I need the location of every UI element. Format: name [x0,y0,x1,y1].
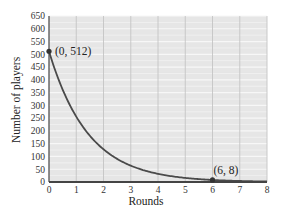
y-axis-ticks: 050100150200250300350400450500550600650 [31,11,46,187]
x-tick-label: 1 [74,185,79,195]
x-tick-label: 4 [156,185,161,195]
x-axis-ticks: 012345678 [47,185,270,195]
data-point-marker [46,49,51,54]
data-point-marker [210,177,215,182]
y-tick-label: 50 [36,165,46,175]
x-tick-label: 6 [210,185,215,195]
x-tick-label: 8 [265,185,270,195]
y-tick-label: 450 [31,62,46,72]
x-axis-title: Rounds [128,195,164,207]
y-tick-label: 200 [31,126,46,136]
y-tick-label: 650 [31,11,46,21]
y-tick-label: 350 [31,88,46,98]
x-tick-label: 0 [47,185,52,195]
x-tick-label: 2 [101,185,106,195]
y-tick-label: 400 [31,75,46,85]
y-tick-label: 250 [31,113,46,123]
exponential-decay-chart: 050100150200250300350400450500550600650 … [0,0,281,216]
x-tick-label: 3 [128,185,133,195]
point-label: (6, 8) [214,164,239,177]
point-label: (0, 512) [55,45,92,58]
y-tick-label: 100 [31,152,46,162]
y-tick-label: 500 [31,50,46,60]
y-tick-label: 300 [31,101,46,111]
x-tick-label: 5 [183,185,188,195]
y-tick-label: 550 [31,37,46,47]
y-tick-label: 150 [31,139,46,149]
y-tick-label: 600 [31,24,46,34]
y-axis-title: Number of players [10,56,23,143]
y-tick-label: 0 [40,177,45,187]
x-tick-label: 7 [237,185,242,195]
